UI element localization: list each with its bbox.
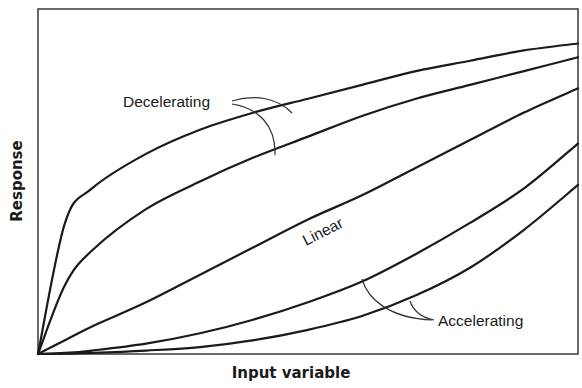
curve-group bbox=[38, 44, 578, 355]
y-axis-label: Response bbox=[8, 136, 26, 226]
decelerating-leader-lower bbox=[232, 104, 275, 155]
chart-canvas: Decelerating Linear Accelerating bbox=[0, 0, 582, 388]
curve-decelerating-strong bbox=[38, 44, 578, 355]
accelerating-leader-upper bbox=[362, 279, 432, 320]
decelerating-label: Decelerating bbox=[123, 93, 210, 110]
accelerating-leader-lower bbox=[410, 301, 434, 320]
annotation-group: Decelerating Linear Accelerating bbox=[123, 93, 523, 329]
x-axis-label: Input variable bbox=[0, 364, 582, 382]
accelerating-label: Accelerating bbox=[438, 312, 523, 329]
